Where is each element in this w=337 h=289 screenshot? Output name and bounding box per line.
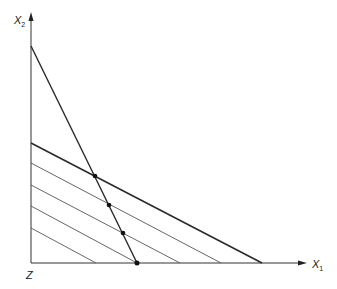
y-axis-arrow-icon — [29, 12, 34, 21]
x-axis-label: X1 — [312, 259, 323, 272]
origin-label: Z — [26, 270, 33, 281]
parallel-line-4 — [31, 228, 96, 263]
parallel-line-2 — [31, 185, 180, 263]
parallel-line-3 — [31, 206, 137, 263]
parallel-line-1 — [31, 163, 221, 263]
parallel-lines — [31, 163, 221, 263]
y-axis-label: X2 — [14, 15, 25, 28]
dot-4 — [135, 261, 140, 266]
dot-2 — [107, 203, 112, 208]
dot-1 — [93, 174, 98, 179]
steep-line — [31, 46, 137, 263]
dot-3 — [121, 231, 126, 236]
diagram-canvas — [0, 0, 337, 289]
x-axis-arrow-icon — [298, 261, 307, 266]
